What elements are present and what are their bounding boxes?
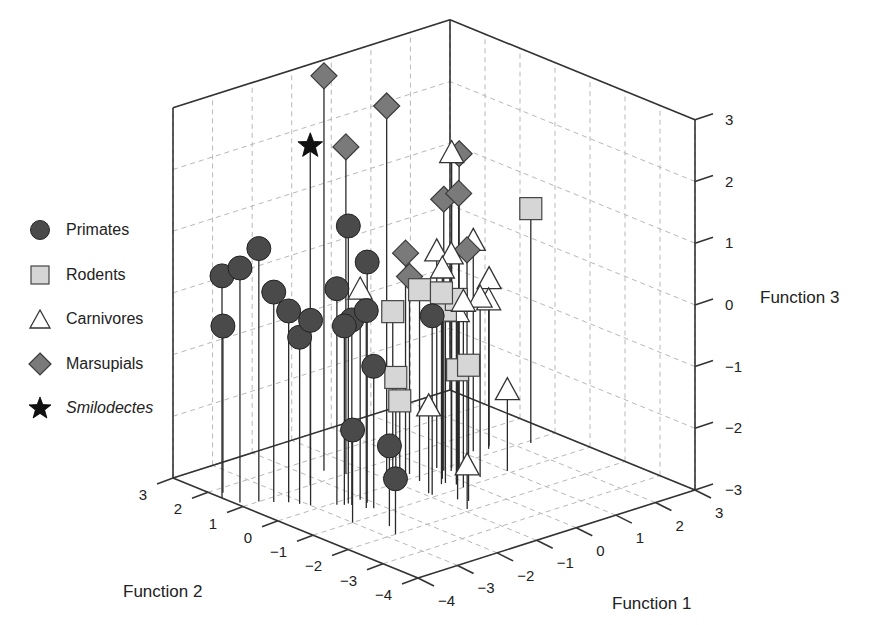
axis-ticks: 3210−1−2−33210−1−2−3−4−4−3−2−10123 xyxy=(139,111,742,609)
x-tick xyxy=(616,515,632,523)
grid-line xyxy=(213,465,458,565)
legend-label: Smilodectes xyxy=(66,399,153,417)
primate-point xyxy=(377,434,401,458)
legend: Primates Rodents Carnivores Marsupials S… xyxy=(28,208,228,431)
z-tick xyxy=(695,176,713,182)
legend-item-rodents: Rodents xyxy=(28,253,228,298)
x-tick xyxy=(576,528,592,536)
diamond-marker-icon xyxy=(28,352,52,376)
y-tick-label: 3 xyxy=(139,486,147,503)
carnivore-point xyxy=(495,378,519,400)
x-tick-label: 0 xyxy=(596,542,604,559)
x-tick-label: −3 xyxy=(478,579,495,596)
z-tick-label: 2 xyxy=(725,173,733,190)
primate-point xyxy=(354,299,378,323)
rodent-point xyxy=(389,390,411,412)
primate-point xyxy=(420,304,444,328)
frame-edge xyxy=(450,390,695,490)
y-tick xyxy=(157,478,173,484)
x-tick-label: −4 xyxy=(438,592,455,609)
y-axis-title: Function 2 xyxy=(123,582,202,602)
grid-line xyxy=(450,82,695,182)
y-tick xyxy=(192,492,208,498)
primate-point xyxy=(299,308,323,332)
marsupial-point xyxy=(393,240,419,266)
marsupial-point xyxy=(374,93,400,119)
carnivore-point xyxy=(348,277,372,299)
primate-point xyxy=(228,256,252,280)
x-tick-label: 2 xyxy=(675,517,683,534)
primate-point xyxy=(341,418,365,442)
triangle-marker-icon xyxy=(28,307,52,331)
grid-line xyxy=(450,328,695,428)
primate-point xyxy=(247,237,271,261)
y-tick xyxy=(367,564,383,570)
y-tick-label: 0 xyxy=(244,529,252,546)
z-tick xyxy=(695,484,713,490)
frame-edge xyxy=(450,20,695,120)
circle-marker-icon xyxy=(28,218,52,242)
z-tick-label: 0 xyxy=(725,296,733,313)
x-tick xyxy=(458,565,474,573)
star-marker-icon xyxy=(28,396,52,420)
y-tick-label: 1 xyxy=(209,515,217,532)
y-tick xyxy=(262,521,278,527)
square-marker-icon xyxy=(28,263,52,287)
z-tick xyxy=(695,422,713,428)
y-tick xyxy=(402,578,418,584)
grid-line xyxy=(450,143,695,243)
rodent-point xyxy=(458,354,480,376)
primate-point xyxy=(325,277,349,301)
x-tick xyxy=(537,540,553,548)
x-tick xyxy=(655,503,671,511)
rodent-point xyxy=(520,198,542,220)
data-markers xyxy=(210,63,542,491)
legend-item-smilodectes: Smilodectes xyxy=(28,386,228,431)
x-tick xyxy=(695,490,711,498)
z-tick xyxy=(695,361,713,367)
legend-item-carnivores: Carnivores xyxy=(28,297,228,342)
y-tick-label: 2 xyxy=(174,500,182,517)
marsupial-point xyxy=(311,63,337,89)
x-axis-title: Function 1 xyxy=(612,594,691,614)
grid-line xyxy=(383,476,660,564)
rodent-point xyxy=(385,366,407,388)
legend-label: Carnivores xyxy=(66,310,143,328)
y-tick xyxy=(332,549,348,555)
primate-point xyxy=(332,314,356,338)
z-tick xyxy=(695,114,713,120)
z-tick xyxy=(695,237,713,243)
z-tick-label: −2 xyxy=(725,419,742,436)
grid-line xyxy=(292,440,537,540)
legend-label: Primates xyxy=(66,221,129,239)
x-tick-label: −1 xyxy=(557,554,574,571)
y-tick-label: −2 xyxy=(305,557,322,574)
primate-point xyxy=(355,250,379,274)
primate-point xyxy=(362,354,386,378)
rodent-point xyxy=(382,301,404,323)
x-tick-label: −2 xyxy=(517,567,534,584)
x-tick-label: 1 xyxy=(636,529,644,546)
z-tick-label: −3 xyxy=(725,481,742,498)
legend-item-primates: Primates xyxy=(28,208,228,253)
z-tick-label: −1 xyxy=(725,358,742,375)
y-tick-label: −4 xyxy=(375,586,392,603)
legend-label: Marsupials xyxy=(66,355,143,373)
rodent-point xyxy=(409,279,431,301)
rodent-point xyxy=(430,282,452,304)
y-tick xyxy=(227,507,243,513)
z-tick-label: 3 xyxy=(725,111,733,128)
x-tick xyxy=(497,553,513,561)
y-tick-label: −3 xyxy=(340,572,357,589)
marsupial-point xyxy=(333,134,359,160)
grid-line xyxy=(243,419,520,507)
grid-line xyxy=(371,415,616,515)
z-axis-title: Function 3 xyxy=(760,288,839,308)
legend-item-marsupials: Marsupials xyxy=(28,342,228,387)
grid-line xyxy=(331,428,576,528)
y-tick xyxy=(297,535,313,541)
x-tick-label: 3 xyxy=(715,504,723,521)
grid-line xyxy=(410,403,655,503)
z-tick-label: 1 xyxy=(725,234,733,251)
y-tick-label: −1 xyxy=(270,543,287,560)
